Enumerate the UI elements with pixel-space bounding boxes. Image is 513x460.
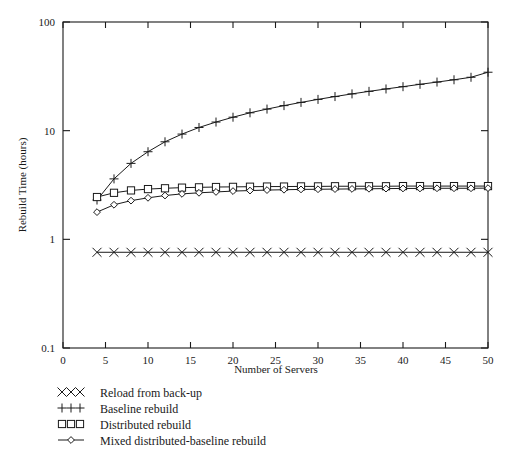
marker-square-shape — [110, 189, 117, 196]
data-point-marker — [67, 420, 74, 427]
y-tick-label: 0.1 — [41, 342, 55, 354]
y-tick-label: 10 — [44, 125, 56, 137]
data-point-marker — [76, 420, 83, 427]
marker-square-shape — [76, 420, 83, 427]
legend-label: Reload from back-up — [100, 386, 202, 400]
y-axis-title: Rebuild Time (hours) — [16, 137, 29, 232]
marker-square-shape — [67, 420, 74, 427]
rebuild-time-line-chart: 05101520253035404550 0.1110100 Number of… — [0, 0, 513, 460]
y-tick-label: 1 — [50, 233, 56, 245]
chart-background — [0, 0, 513, 460]
x-tick-label: 5 — [103, 354, 109, 366]
legend-label: Mixed distributed-baseline rebuild — [100, 434, 266, 448]
x-axis-title: Number of Servers — [234, 363, 318, 375]
y-tick-label: 100 — [39, 16, 56, 28]
marker-square-shape — [58, 420, 65, 427]
x-tick-label: 35 — [355, 354, 367, 366]
data-point-marker — [58, 420, 65, 427]
x-tick-label: 40 — [398, 354, 410, 366]
x-tick-label: 10 — [143, 354, 155, 366]
x-tick-label: 15 — [185, 354, 197, 366]
marker-square-shape — [161, 185, 168, 192]
x-tick-label: 50 — [483, 354, 495, 366]
data-point-marker — [161, 185, 168, 192]
marker-square-shape — [144, 185, 151, 192]
x-tick-label: 0 — [60, 354, 66, 366]
data-point-marker — [110, 189, 117, 196]
chart-figure: 05101520253035404550 0.1110100 Number of… — [0, 0, 513, 460]
data-point-marker — [127, 187, 134, 194]
data-point-marker — [93, 193, 100, 200]
marker-square-shape — [93, 193, 100, 200]
x-tick-label: 45 — [440, 354, 452, 366]
legend-label: Distributed rebuild — [100, 418, 191, 432]
legend-label: Baseline rebuild — [100, 402, 178, 416]
data-point-marker — [144, 185, 151, 192]
marker-square-shape — [127, 187, 134, 194]
